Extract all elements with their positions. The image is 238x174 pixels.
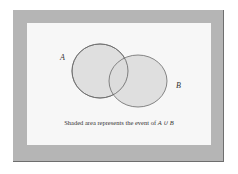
set-b-label: B (176, 81, 181, 90)
caption-math: A ∪ B (158, 119, 174, 126)
diagram-caption: Shaded area represents the event of A ∪ … (27, 119, 211, 127)
venn-diagram (0, 0, 238, 174)
set-a-label: A (60, 53, 65, 62)
caption-text: Shaded area represents the event of (64, 119, 158, 126)
set-b-circle (109, 55, 167, 107)
